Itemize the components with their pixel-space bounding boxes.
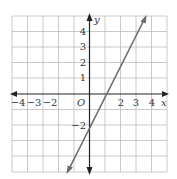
y-tick-labels: 4 3 2 1 −2 (71, 26, 86, 131)
y-tick-label: 1 (80, 72, 86, 83)
x-tick-label: 3 (133, 97, 139, 108)
y-tick-label: −2 (71, 120, 86, 131)
x-axis-label: x (161, 97, 167, 108)
x-tick-label: 2 (118, 97, 124, 108)
y-tick-label: 4 (80, 26, 86, 37)
x-tick-label: −2 (43, 97, 58, 108)
x-tick-label: −4 (11, 97, 26, 108)
origin-label: O (77, 97, 85, 108)
x-tick-label: 4 (149, 97, 155, 108)
y-tick-label: 2 (80, 57, 86, 68)
coordinate-graph: −4 −3 −2 2 3 4 x O 4 3 2 1 −2 y (0, 0, 177, 179)
x-tick-label: −3 (27, 97, 42, 108)
y-axis-label: y (93, 14, 100, 25)
y-tick-label: 3 (80, 41, 86, 52)
